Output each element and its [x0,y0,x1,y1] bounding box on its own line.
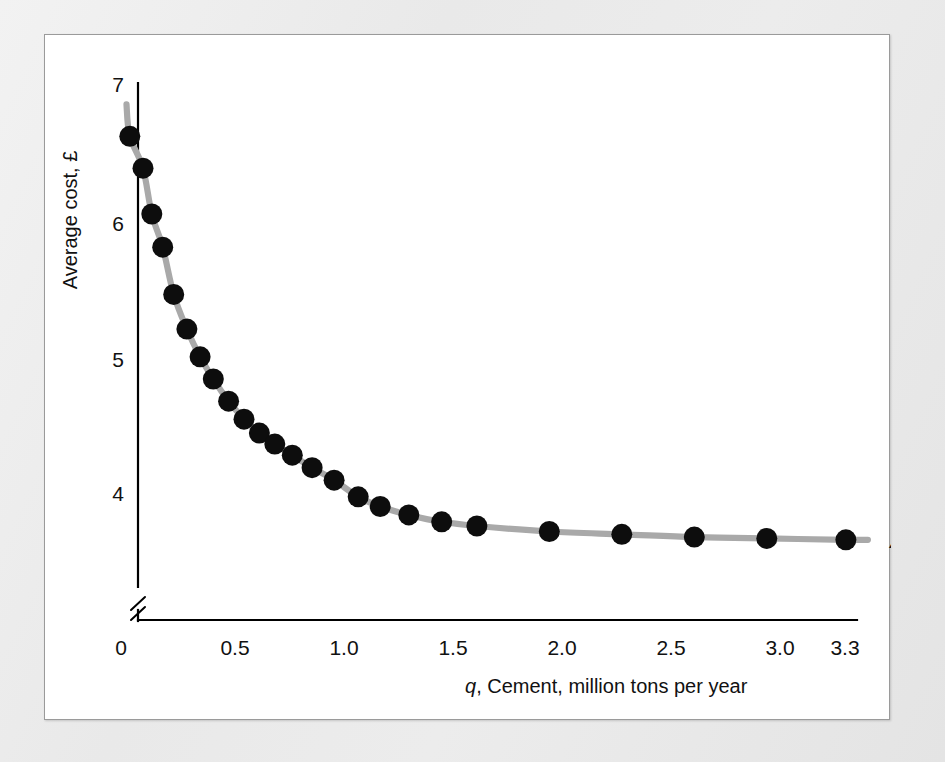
data-point [133,158,154,179]
average-cost-chart: 7 6 5 4 0 0.5 1.0 1.5 2.0 2.5 3.0 3.3 Av… [45,35,891,721]
data-point [398,504,419,525]
data-point [176,319,197,340]
data-point [611,524,632,545]
series-label-ac: AC [888,528,891,553]
data-point [190,346,211,367]
data-point [203,369,224,390]
figure-panel: 7 6 5 4 0 0.5 1.0 1.5 2.0 2.5 3.0 3.3 Av… [44,34,890,720]
y-tick-label-4: 4 [112,482,124,505]
x-axis-title-variable: q [465,675,476,697]
data-point [282,445,303,466]
data-point [264,434,285,455]
y-tick-label-5: 5 [112,348,124,371]
data-point [163,284,184,305]
x-tick-label-2-5: 2.5 [656,636,685,659]
data-point [684,527,705,548]
data-point [302,457,323,478]
x-axis-title: q, Cement, million tons per year [465,675,748,697]
data-point [466,516,487,537]
x-tick-label-0: 0 [115,636,127,659]
x-tick-label-2-0: 2.0 [547,636,576,659]
y-tick-label-6: 6 [112,212,124,235]
x-tick-label-1-5: 1.5 [438,636,467,659]
x-tick-label-3-3: 3.3 [830,636,859,659]
y-axis-title: Average cost, £ [59,151,81,290]
chart-svg: 7 6 5 4 0 0.5 1.0 1.5 2.0 2.5 3.0 3.3 Av… [45,35,891,721]
x-tick-label-1-0: 1.0 [329,636,358,659]
x-tick-label-0-5: 0.5 [220,636,249,659]
data-point [141,204,162,225]
data-point [324,470,345,491]
y-tick-label-7: 7 [112,73,124,96]
data-point [152,237,173,258]
data-point [119,126,140,147]
data-point [348,486,369,507]
ac-data-points [119,126,856,551]
x-axis-title-text: , Cement, million tons per year [476,675,748,697]
data-point [756,528,777,549]
data-point [539,521,560,542]
data-point [431,511,452,532]
data-point [218,391,239,412]
x-tick-label-3-0: 3.0 [765,636,794,659]
data-point [835,529,856,550]
ac-curve-line [127,104,868,540]
data-point [370,496,391,517]
